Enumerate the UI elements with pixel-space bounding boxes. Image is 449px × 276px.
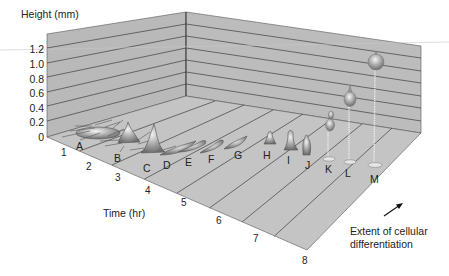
- stage-label-f: F: [208, 154, 214, 165]
- time-tick-6: 6: [216, 216, 222, 226]
- time-tick-7: 7: [253, 234, 259, 244]
- stage-label-m: M: [370, 174, 379, 185]
- stage-label-b: B: [114, 153, 121, 164]
- stage-label-d: D: [163, 160, 171, 171]
- x-axis-title: Time (hr): [103, 208, 145, 219]
- differentiation-note: Extent of cellular differentiation: [350, 225, 428, 251]
- differentiation-arrow-icon: [384, 203, 403, 216]
- y-tick-0: 0: [20, 132, 44, 143]
- differentiation-note-line2: differentiation: [350, 238, 428, 251]
- time-tick-5: 5: [181, 198, 187, 208]
- differentiation-note-line1: Extent of cellular: [350, 225, 428, 238]
- time-tick-8: 8: [302, 256, 308, 266]
- stage-label-e: E: [185, 157, 192, 168]
- stage-label-g: G: [234, 150, 242, 161]
- y-tick-0-6: 0.6: [20, 88, 44, 99]
- stage-label-a: A: [76, 141, 83, 152]
- y-tick-1-2: 1.2: [20, 44, 44, 55]
- stage-label-k: K: [325, 164, 332, 175]
- stage-label-l: L: [345, 168, 351, 179]
- time-tick-4: 4: [145, 186, 151, 196]
- y-axis-title: Height (mm): [21, 9, 79, 20]
- stage-label-j: J: [305, 160, 310, 171]
- stage-label-h: H: [263, 150, 271, 161]
- time-tick-3: 3: [115, 173, 121, 183]
- y-tick-0-4: 0.4: [20, 103, 44, 114]
- y-tick-0-2: 0.2: [20, 117, 44, 128]
- time-tick-2: 2: [86, 162, 92, 172]
- stage-label-i: I: [287, 155, 290, 166]
- y-tick-1-0: 1.0: [20, 59, 44, 70]
- time-tick-1: 1: [61, 148, 67, 158]
- y-tick-0-8: 0.8: [20, 74, 44, 85]
- stage-label-c: C: [143, 163, 151, 174]
